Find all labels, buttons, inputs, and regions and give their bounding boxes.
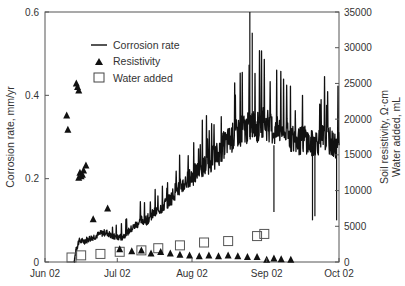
water-added-marker [77,251,86,260]
y-right-tick-label: 5000 [344,221,367,232]
resistivity-marker [287,256,294,263]
y-left-tick-label: 0.2 [25,173,39,184]
water-added-marker [175,241,184,250]
resistivity-marker [73,79,80,86]
legend-square-icon [94,73,104,82]
water-added-marker [200,238,209,247]
corrosion-chart: 00.20.40.6050001000015000200002500030000… [0,0,405,286]
resistivity-marker [234,252,241,259]
resistivity-marker [63,112,70,119]
resistivity-marker [225,252,232,259]
y-right-tick-label: 0 [344,257,350,268]
resistivity-marker [205,252,212,259]
y-left-tick-label: 0 [33,257,39,268]
resistivity-marker [116,245,123,252]
resistivity-marker [215,252,222,259]
y-right-tick-label: 20000 [344,114,372,125]
y-right-tick-label: 30000 [344,42,372,53]
y-right-tick-label: 35000 [344,7,372,18]
legend-label-corrosion: Corrosion rate [113,39,180,51]
x-tick-label: Aug 02 [176,268,208,279]
y-right-tick-label: 15000 [344,149,372,160]
legend-label-water: Water added [113,72,173,84]
resistivity-marker [104,204,111,211]
x-tick-label: Jun 02 [30,268,60,279]
resistivity-marker [196,252,203,259]
y-right-tick-label: 25000 [344,78,372,89]
y-left-tick-label: 0.6 [25,7,39,18]
resistivity-marker [82,162,89,169]
resistivity-marker [270,254,277,261]
y-left-tick-label: 0.4 [25,90,39,101]
water-added-marker [96,249,105,258]
water-added-marker [224,237,233,246]
series-layer [63,12,339,263]
resistivity-marker [176,251,183,258]
y-axis-left-title: Corrosion rate, mm/yr [4,86,16,188]
legend: Corrosion rate Resistivity Water added [91,39,180,84]
resistivity-marker [244,253,251,260]
legend-triangle-icon [95,58,103,65]
resistivity-marker [254,253,261,260]
x-tick-label: Oct 02 [324,268,354,279]
resistivity-marker [90,215,97,222]
x-tick-label: Sep 02 [251,268,283,279]
resistivity-marker [138,247,145,254]
y-axis-right-title-2: Water added, mL [390,97,402,177]
y-axis-right-title-1: Soil resistivity, Ω·cm [378,90,390,184]
legend-label-resistivity: Resistivity [113,55,161,67]
resistivity-marker [186,252,193,259]
y-right-tick-label: 10000 [344,185,372,196]
resistivity-marker [278,255,285,262]
resistivity-marker [167,249,174,256]
x-tick-label: Jul 02 [104,268,131,279]
resistivity-marker [64,126,71,133]
resistivity-marker [128,247,135,254]
